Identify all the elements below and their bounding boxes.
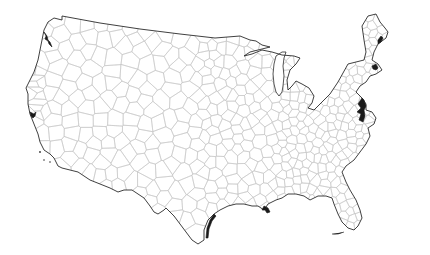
florida-keys (332, 232, 344, 234)
channel-island (39, 151, 41, 153)
us-voronoi-map (0, 0, 430, 255)
map-container (0, 0, 430, 255)
channel-island (43, 159, 45, 161)
mississippi-delta (262, 206, 270, 213)
channel-island (49, 161, 51, 163)
